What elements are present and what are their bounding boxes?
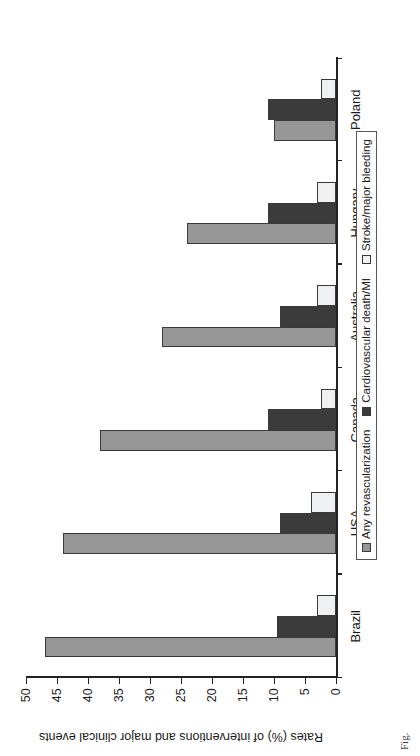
x-axis-tick-mark [336, 58, 342, 59]
y-axis-tick-mark [119, 678, 120, 684]
bar-poland-series-2 [321, 79, 337, 100]
y-axis-tick-mark [181, 678, 182, 684]
bar-canada-series-0 [100, 430, 336, 451]
y-axis-tick-mark [88, 678, 89, 684]
legend-item-stroke-major-bleeding: Stroke/major bleeding [360, 139, 372, 264]
y-axis-tick-label: 45 [50, 688, 64, 702]
figure-caption: Fig. [398, 733, 410, 750]
y-axis-label: Rates (%) of interventions and major cli… [39, 730, 323, 744]
y-axis-tick-label: 15 [236, 688, 250, 702]
x-axis-tick-mark [336, 367, 342, 368]
bar-brazil-series-0 [45, 637, 336, 658]
legend-swatch-icon-stroke-major-bleeding [362, 255, 371, 264]
bar-canada-series-2 [321, 389, 337, 410]
plot-area: 05101520253035404550BrazilUSACanadaAustr… [26, 58, 336, 678]
x-axis-tick-mark [336, 263, 342, 264]
bar-australia-series-1 [280, 306, 336, 327]
y-axis-tick-label: 50 [19, 688, 33, 702]
y-axis-tick-label: 35 [112, 688, 126, 702]
bar-canada-series-1 [268, 409, 336, 430]
legend-swatch-icon-any-revascularization [362, 543, 371, 552]
y-axis-tick-mark [57, 678, 58, 684]
x-axis-tick-mark [336, 470, 342, 471]
legend-item-cardiovascular-death-mi: Cardiovascular death/MI [360, 278, 372, 416]
bar-brazil-series-1 [277, 616, 336, 637]
bar-usa-series-2 [311, 492, 336, 513]
bar-australia-series-2 [317, 285, 336, 306]
bar-hungary-series-1 [268, 203, 336, 224]
x-axis-tick-mark [336, 160, 342, 161]
bar-usa-series-1 [280, 513, 336, 534]
chart-legend: Any revascularization Cardiovascular dea… [356, 131, 377, 560]
x-axis-tick-mark [336, 573, 342, 574]
y-axis-tick-label: 25 [174, 688, 188, 702]
y-axis-tick-mark [305, 678, 306, 684]
x-axis-category-label-poland: Poland [348, 89, 363, 129]
y-axis-tick-label: 5 [298, 688, 312, 695]
x-axis-category-label-brazil: Brazil [348, 610, 363, 643]
legend-label-cardiovascular-death-mi: Cardiovascular death/MI [360, 278, 372, 403]
y-axis-tick-label: 0 [329, 688, 343, 695]
y-axis-tick-label: 10 [267, 688, 281, 702]
y-axis-tick-mark [150, 678, 151, 684]
rotated-figure-stage: Rates (%) of interventions and major cli… [0, 0, 420, 756]
legend-label-any-revascularization: Any revascularization [360, 430, 372, 539]
bar-usa-series-0 [63, 533, 336, 554]
y-axis-tick-label: 40 [81, 688, 95, 702]
bar-poland-series-0 [274, 120, 336, 141]
bar-brazil-series-2 [317, 595, 336, 616]
y-axis-tick-mark [274, 678, 275, 684]
bar-australia-series-0 [162, 327, 336, 348]
bar-hungary-series-0 [187, 223, 336, 244]
legend-label-stroke-major-bleeding: Stroke/major bleeding [360, 139, 372, 251]
y-axis-tick-mark [26, 678, 27, 684]
y-axis-tick-label: 30 [143, 688, 157, 702]
legend-item-any-revascularization: Any revascularization [360, 430, 372, 552]
bar-hungary-series-2 [317, 182, 336, 203]
legend-swatch-icon-cardiovascular-death-mi [362, 407, 371, 416]
y-axis-tick-mark [212, 678, 213, 684]
y-axis-tick-label: 20 [205, 688, 219, 702]
bar-poland-series-1 [268, 99, 336, 120]
y-axis-tick-mark [243, 678, 244, 684]
x-axis-tick-mark [336, 677, 342, 678]
bar-chart-figure: Rates (%) of interventions and major cli… [0, 0, 420, 756]
y-axis-tick-mark [336, 678, 337, 684]
